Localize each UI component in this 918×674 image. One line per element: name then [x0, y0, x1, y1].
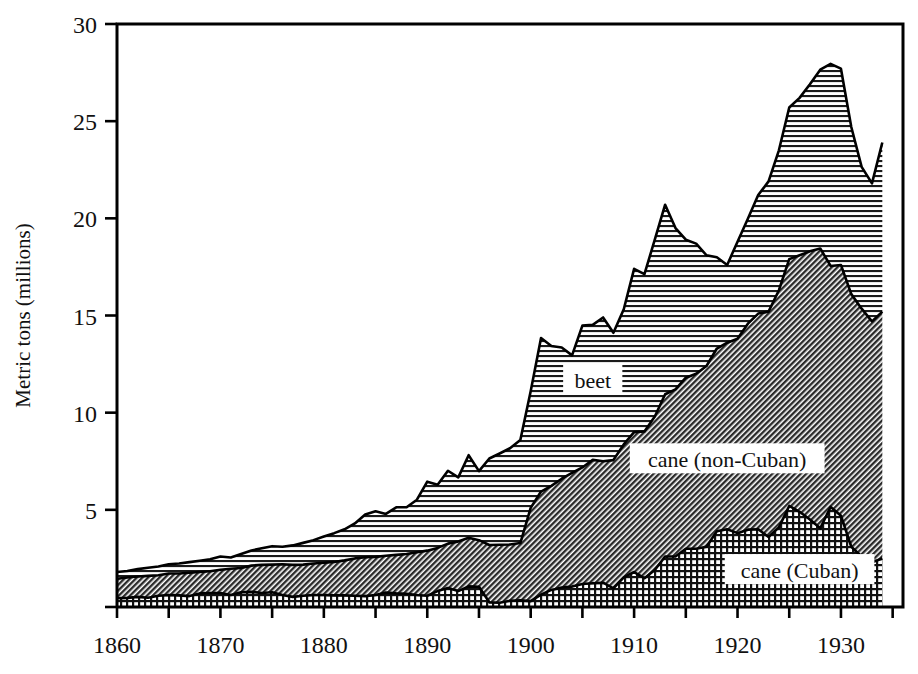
x-axis-tick-labels: 18601870188018901900191019201930 — [93, 632, 865, 658]
y-axis-tick-labels: 51015202530 — [73, 12, 97, 524]
y-tick-label: 25 — [73, 109, 97, 135]
y-axis-title-text: Metric tons (millions) — [11, 223, 35, 407]
series-annotation-label: cane (non-Cuban) — [648, 447, 806, 472]
x-tick-label: 1930 — [817, 632, 865, 658]
plot-areas — [117, 64, 882, 607]
y-tick-label: 20 — [73, 206, 97, 232]
x-tick-label: 1880 — [300, 632, 348, 658]
y-tick-label: 10 — [73, 401, 97, 427]
x-tick-label: 1910 — [610, 632, 658, 658]
y-axis-title: Metric tons (millions) — [11, 223, 35, 407]
x-tick-label: 1900 — [507, 632, 555, 658]
x-tick-label: 1860 — [93, 632, 141, 658]
x-tick-label: 1890 — [403, 632, 451, 658]
series-annotation-label: beet — [574, 368, 611, 393]
x-tick-label: 1920 — [714, 632, 762, 658]
stacked-area-chart: 18601870188018901900191019201930 5101520… — [0, 0, 918, 674]
x-tick-label: 1870 — [196, 632, 244, 658]
series-annotation-label: cane (Cuban) — [741, 558, 859, 583]
y-tick-label: 30 — [73, 12, 97, 38]
y-axis-ticks — [105, 24, 117, 607]
y-tick-label: 5 — [85, 498, 97, 524]
chart-root: 18601870188018901900191019201930 5101520… — [0, 0, 918, 674]
x-axis-ticks — [117, 607, 893, 618]
y-tick-label: 15 — [73, 304, 97, 330]
